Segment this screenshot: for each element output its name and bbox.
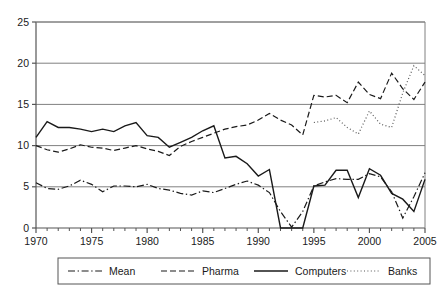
legend-label-pharma[interactable]: Pharma: [202, 265, 239, 277]
x-tick-label-1975: 1975: [80, 235, 104, 247]
legend-label-computers[interactable]: Computers: [295, 265, 346, 277]
y-tick-label-0: 0: [23, 222, 29, 234]
x-tick-label-1970: 1970: [24, 235, 48, 247]
y-tick-label-15: 15: [17, 98, 29, 110]
chart-legend[interactable]: MeanPharmaComputersBanks: [58, 258, 430, 284]
x-tick-label-2000: 2000: [358, 235, 382, 247]
y-tick-label-25: 25: [17, 16, 29, 28]
legend-label-banks[interactable]: Banks: [388, 265, 417, 277]
y-tick-label-10: 10: [17, 139, 29, 151]
legend-label-mean[interactable]: Mean: [109, 265, 135, 277]
x-tick-label-1995: 1995: [302, 235, 326, 247]
x-tick-label-2005: 2005: [413, 235, 437, 247]
x-tick-label-1980: 1980: [135, 235, 159, 247]
chart-canvas: 0510152025 19701975198019851990199520002…: [0, 0, 438, 291]
x-tick-label-1990: 1990: [247, 235, 271, 247]
line-chart: 0510152025 19701975198019851990199520002…: [0, 0, 438, 291]
y-tick-label-5: 5: [23, 180, 29, 192]
y-tick-label-20: 20: [17, 57, 29, 69]
x-tick-label-1985: 1985: [191, 235, 215, 247]
